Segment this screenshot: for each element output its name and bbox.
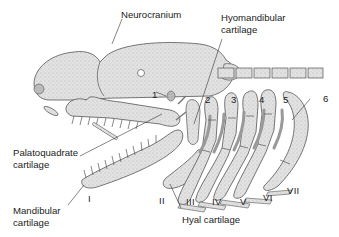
label-mandibular-line1: Mandibular (13, 205, 60, 216)
shark-skull-diagram: Neurocranium Hyomandibular cartilage Pal… (0, 0, 339, 237)
arch-numeral-3: III (186, 197, 195, 207)
arch-numeral-4: IV (212, 197, 222, 207)
arch-numeral-2: II (159, 196, 165, 206)
arch-numeral-6: VI (263, 193, 273, 203)
label-palatoquadrate-line1: Palatoquadrate (13, 147, 78, 158)
label-hyal-cartilage: Hyal cartilage (182, 214, 240, 225)
labial-cartilage (43, 105, 59, 118)
arch-numeral-5: V (240, 197, 247, 207)
palatoquadrate-shape (66, 97, 180, 138)
spiracle (167, 91, 175, 101)
slit-number-4: 4 (259, 95, 264, 105)
label-neurocranium: Neurocranium (121, 9, 181, 20)
slit-number-5: 5 (283, 95, 288, 105)
vertebrae (218, 68, 323, 78)
label-mandibular-line2: cartilage (13, 217, 49, 228)
skull-illustration (0, 0, 339, 237)
slit-number-6: 6 (323, 94, 328, 104)
label-hyomandibular-line1: Hyomandibular (221, 12, 286, 23)
slit-number-1: 1 (152, 90, 157, 100)
slit-number-2: 2 (205, 95, 210, 105)
label-palatoquadrate-line2: cartilage (13, 159, 49, 170)
arch-numeral-7: VII (287, 186, 300, 196)
arch-numeral-1: I (88, 194, 91, 204)
slit-number-3: 3 (231, 95, 236, 105)
label-hyomandibular-line2: cartilage (221, 24, 257, 35)
neurocranium-shape (34, 43, 240, 101)
